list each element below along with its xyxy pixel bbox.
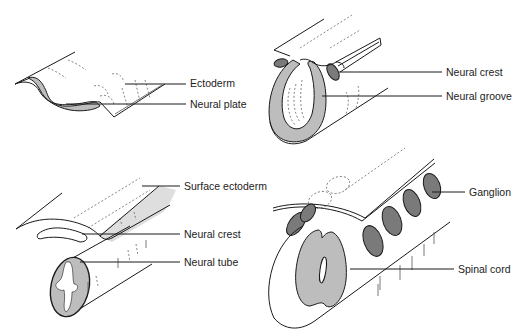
panel-neural-plate <box>15 52 186 117</box>
panel-neural-tube <box>16 178 180 320</box>
label-surface-ectoderm: Surface ectoderm <box>184 180 267 192</box>
label-spinal-cord: Spinal cord <box>458 263 511 275</box>
label-ganglion: Ganglion <box>469 186 511 198</box>
label-ectoderm: Ectoderm <box>190 77 235 89</box>
label-neural-crest-tube-stage: Neural crest <box>184 228 241 240</box>
label-neural-plate: Neural plate <box>190 98 247 110</box>
label-neural-crest-groove-stage: Neural crest <box>446 66 503 78</box>
neural-tube-diagram <box>0 0 524 335</box>
panel-spinal-cord <box>269 148 465 328</box>
label-neural-groove: Neural groove <box>446 90 512 102</box>
panel-neural-groove <box>269 15 442 144</box>
label-neural-tube: Neural tube <box>184 256 238 268</box>
